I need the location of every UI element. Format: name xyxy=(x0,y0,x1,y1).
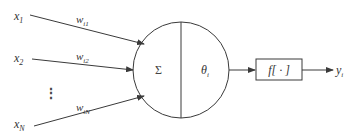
input-label-x2: x2 xyxy=(13,51,23,67)
neuron-body: Σ θi xyxy=(133,22,229,118)
threshold-label: θi xyxy=(201,63,209,79)
activation-block: f[ · ] xyxy=(256,59,302,80)
input-2: x2 wi2 xyxy=(13,50,133,70)
input-n: xN wiN xyxy=(13,96,144,133)
input-label-x1: x1 xyxy=(13,9,23,25)
activation-label: f[ · ] xyxy=(268,63,290,77)
input-1: x1 wi1 xyxy=(13,9,144,44)
input-label-xn: xN xyxy=(13,117,25,133)
ellipsis-vertical: ⋮ xyxy=(44,86,58,101)
weight-label-wi2: wi2 xyxy=(76,50,89,65)
summation-symbol: Σ xyxy=(155,63,162,77)
output-label: yi xyxy=(335,63,343,79)
neuron-diagram: x1 wi1 x2 wi2 ⋮ xN wiN Σ θi f[ · ] yi xyxy=(0,0,354,140)
weight-label-wi1: wi1 xyxy=(76,13,89,28)
